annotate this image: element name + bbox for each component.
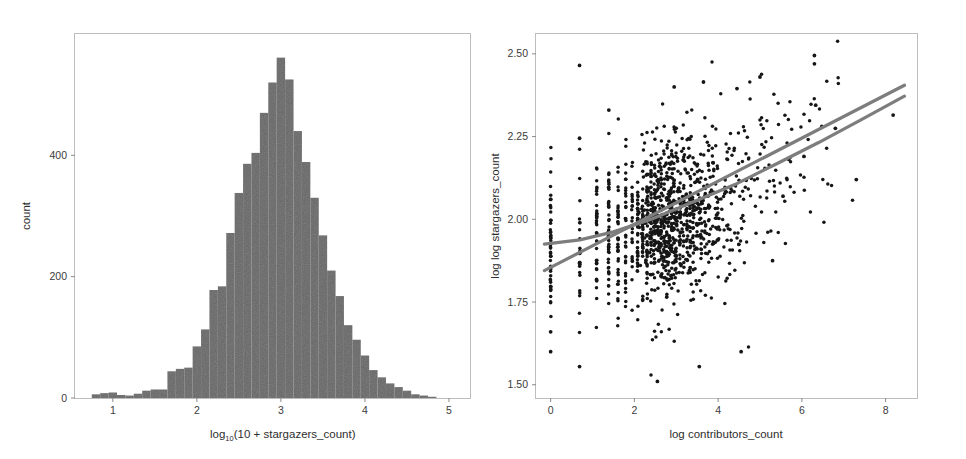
scatter-point	[693, 205, 697, 209]
scatter-point	[549, 279, 553, 283]
scatter-point	[698, 168, 702, 172]
scatter-point	[646, 173, 650, 177]
scatter-point	[716, 167, 720, 171]
scatter-point	[646, 243, 650, 247]
scatter-point	[741, 190, 745, 194]
scatter-point	[836, 76, 840, 80]
scatter-point	[549, 259, 553, 263]
scatter-point	[698, 218, 702, 222]
scatter-point	[676, 216, 680, 220]
scatter-point	[695, 234, 699, 238]
scatter-point	[799, 125, 803, 129]
scatter-point	[616, 237, 620, 241]
scatter-point	[695, 230, 699, 234]
scatter-point-outlier	[739, 350, 743, 354]
scatter-point	[655, 126, 659, 130]
scatter-point	[694, 279, 698, 283]
scatter-point	[630, 185, 634, 189]
scatter-point	[714, 144, 718, 148]
scatter-point	[666, 178, 670, 182]
scatter-point	[652, 249, 656, 253]
right-x-tick-label: 0	[548, 404, 554, 416]
scatter-point	[578, 291, 582, 295]
scatter-point	[624, 162, 628, 166]
histogram-bar	[251, 153, 259, 398]
scatter-point	[680, 150, 684, 154]
scatter-point	[644, 259, 648, 263]
scatter-point	[787, 118, 791, 122]
scatter-point	[653, 288, 657, 292]
scatter-point	[595, 261, 599, 265]
scatter-point	[676, 210, 680, 214]
scatter-point	[607, 284, 611, 288]
scatter-point	[730, 202, 734, 206]
scatter-point	[714, 127, 718, 131]
scatter-point	[636, 318, 640, 322]
scatter-point	[748, 80, 752, 84]
scatter-point	[714, 240, 718, 244]
scatter-point	[738, 195, 742, 199]
scatter-point	[822, 220, 826, 224]
scatter-point	[778, 181, 782, 185]
scatter-point	[696, 178, 700, 182]
scatter-point	[624, 200, 628, 204]
scatter-point	[663, 276, 667, 280]
scatter-point	[742, 125, 746, 129]
scatter-point	[685, 111, 689, 115]
scatter-point	[685, 246, 689, 250]
scatter-point	[711, 146, 715, 150]
scatter-point	[762, 127, 766, 131]
scatter-point	[788, 100, 792, 104]
scatter-point	[549, 230, 553, 234]
scatter-point	[617, 189, 621, 193]
svg-text:log10(10 + stargazers_count): log10(10 + stargazers_count)	[210, 428, 356, 443]
scatter-point	[717, 225, 721, 229]
scatter-point	[653, 137, 657, 141]
scatter-point	[595, 221, 599, 225]
scatter-point	[772, 93, 776, 97]
scatter-point	[652, 252, 656, 256]
scatter-point	[549, 246, 553, 250]
scatter-point	[647, 189, 651, 193]
histogram-bar	[386, 383, 394, 398]
scatter-point	[630, 255, 634, 259]
scatter-point	[676, 169, 680, 173]
scatter-point	[549, 315, 553, 319]
scatter-point	[741, 160, 745, 164]
scatter-point	[646, 194, 650, 198]
scatter-point	[649, 373, 653, 377]
histogram-bar	[243, 164, 251, 398]
left-y-tick-label: 400	[49, 149, 67, 161]
scatter-point	[826, 182, 830, 186]
histogram-bar	[209, 290, 217, 398]
scatter-point	[728, 273, 732, 277]
right-y-axis: 1.501.752.002.252.50	[508, 47, 536, 390]
scatter-point	[607, 258, 611, 262]
scatter-point	[747, 345, 751, 349]
scatter-point-outlier	[735, 87, 739, 91]
scatter-point	[665, 296, 669, 300]
scatter-point	[660, 204, 664, 208]
scatter-point-outlier	[814, 103, 818, 107]
scatter-point	[693, 267, 697, 271]
scatter-point	[790, 127, 794, 131]
scatter-point	[710, 60, 714, 64]
scatter-point	[549, 235, 553, 239]
scatter-point	[691, 221, 695, 225]
scatter-point	[802, 175, 806, 179]
scatter-point	[674, 238, 678, 242]
scatter-point	[728, 191, 732, 195]
scatter-point	[808, 119, 812, 123]
scatter-point	[737, 162, 741, 166]
scatter-point	[666, 196, 670, 200]
right-y-tick-label: 2.00	[508, 213, 529, 225]
scatter-point	[725, 157, 729, 161]
right-x-axis-title: log contributors_count	[669, 428, 783, 440]
scatter-point	[825, 147, 829, 151]
scatter-point	[749, 194, 753, 198]
scatter-point	[670, 167, 674, 171]
scatter-point	[704, 294, 708, 298]
scatter-point	[689, 298, 693, 302]
scatter-point	[640, 133, 644, 137]
scatter-point	[630, 219, 634, 223]
